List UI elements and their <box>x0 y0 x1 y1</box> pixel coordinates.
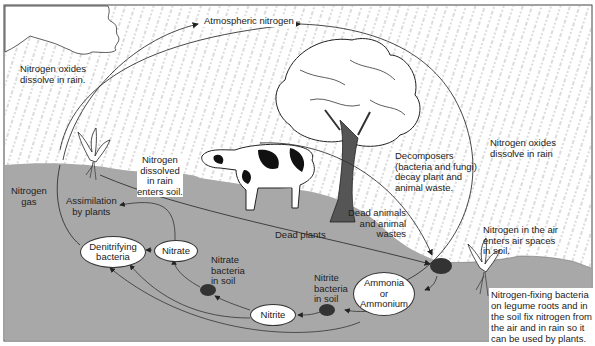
dead-plants-label: Dead plants <box>275 230 326 241</box>
nitrogen-oxides-left-label: Nitrogen oxides dissolve in rain. <box>20 64 86 85</box>
nitrite-bacteria-label: Nitrite bacteria in soil <box>314 273 348 305</box>
bacteria-clump-icon <box>430 258 452 274</box>
bacteria-clump-icon <box>319 304 335 316</box>
ammonia-node: Ammonia or Ammonium <box>353 272 415 316</box>
nitrate-bacteria-label: Nitrate bacteria in soil <box>211 255 245 287</box>
nitrogen-gas-label: Nitrogen gas <box>11 186 47 207</box>
nitrogen-fixing-label: Nitrogen-fixing bacteria on legume roots… <box>489 288 594 345</box>
assimilation-label: Assimilation by plants <box>66 196 117 217</box>
nitrogen-oxides-right-label: Nitrogen oxides dissolve in rain <box>490 138 556 159</box>
atmospheric-nitrogen-label: Atmospheric nitrogen <box>202 16 296 27</box>
dead-animals-label: Dead animals and animal wastes <box>348 208 406 240</box>
nitrogen-cycle-diagram: Atmospheric nitrogen Nitrogen oxides dis… <box>0 0 595 346</box>
nitrate-node: Nitrate <box>154 240 198 262</box>
decomposers-label: Decomposers (bacteria and fungi) decay p… <box>395 151 477 193</box>
nitrite-node: Nitrite <box>250 304 296 326</box>
nitrogen-dissolved-label: Nitrogen dissolved in rain enters soil. <box>137 155 183 197</box>
denitrifying-bacteria-node: Denitrifying bacteria <box>80 236 146 268</box>
air-spaces-label: Nitrogen in the air enters air spaces in… <box>483 225 558 257</box>
